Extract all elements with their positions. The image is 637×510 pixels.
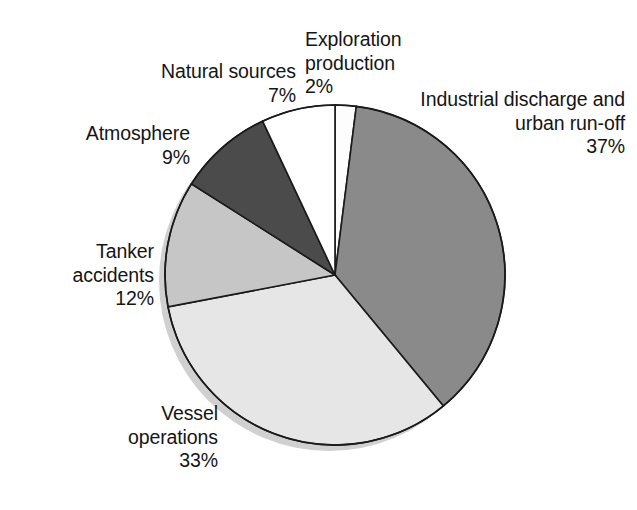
slice-label-tanker-accidents: Tanker accidents 12% [24,240,154,311]
slice-label-tanker-accidents-line2: accidents [24,264,154,288]
slice-label-industrial-discharge-line1: Industrial discharge and [405,88,625,112]
slice-label-vessel-operations-percent: 33% [78,449,218,473]
slice-label-atmosphere-percent: 9% [40,146,190,170]
slice-label-exploration-line2: production [305,52,401,76]
slice-label-industrial-discharge-percent: 37% [405,135,625,159]
slice-label-industrial-discharge: Industrial discharge and urban run-off 3… [405,88,625,159]
slice-label-vessel-operations: Vessel operations 33% [78,402,218,473]
slice-label-exploration: Exploration production 2% [305,28,401,99]
slice-label-tanker-accidents-line1: Tanker [24,240,154,264]
slice-label-atmosphere-line1: Atmosphere [40,122,190,146]
slice-label-industrial-discharge-line2: urban run-off [405,112,625,136]
slice-label-tanker-accidents-percent: 12% [24,287,154,311]
slice-label-natural-sources: Natural sources 7% [120,60,296,107]
slice-label-natural-sources-line1: Natural sources [120,60,296,84]
slice-label-natural-sources-percent: 7% [120,84,296,108]
slice-label-vessel-operations-line1: Vessel [78,402,218,426]
pie-chart-figure: Exploration production 2% Natural source… [0,0,637,510]
slice-label-exploration-line1: Exploration [305,28,401,52]
slice-label-atmosphere: Atmosphere 9% [40,122,190,169]
slice-label-exploration-percent: 2% [305,75,401,99]
slice-label-vessel-operations-line2: operations [78,426,218,450]
